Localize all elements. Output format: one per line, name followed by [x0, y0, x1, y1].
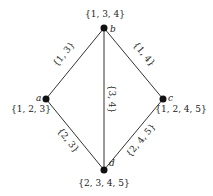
node-set-d: {2, 3, 4, 5} — [78, 178, 130, 188]
node-d — [101, 167, 108, 174]
edge-label-b-c: {1, 4} — [131, 40, 157, 68]
node-set-c: {1, 2, 4, 5} — [155, 104, 207, 114]
graph-diagram: {1, 3} {1, 4} {3, 4} {2, 3} {2, 4, 5} b … — [0, 0, 213, 196]
node-name-c: c — [168, 93, 173, 103]
node-name-a: a — [36, 93, 41, 103]
node-a — [43, 96, 50, 103]
node-name-b: b — [110, 24, 116, 34]
node-set-a: {1, 2, 3} — [11, 104, 51, 114]
node-name-d: d — [109, 158, 115, 168]
node-b — [101, 25, 108, 32]
node-c — [160, 96, 167, 103]
edge-label-b-d: {3, 4} — [107, 85, 117, 114]
edge-label-b-a: {1, 3} — [51, 40, 77, 69]
edge-label-a-d: {2, 3} — [55, 126, 81, 155]
edge-a-d — [46, 99, 104, 170]
node-set-b: {1, 3, 4} — [85, 9, 125, 19]
